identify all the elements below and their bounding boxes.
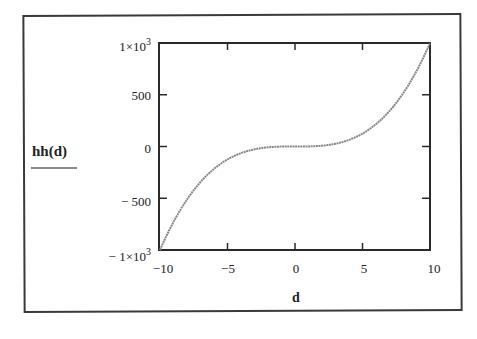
series-line-hh xyxy=(160,43,430,250)
plot-canvas xyxy=(0,0,477,339)
